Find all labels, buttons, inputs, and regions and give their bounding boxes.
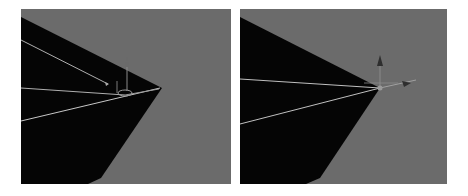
gizmo-pivot-icon[interactable]	[378, 86, 383, 91]
viewport-right[interactable]	[240, 9, 447, 184]
viewport-left[interactable]	[21, 9, 231, 184]
viewport-left-canvas[interactable]	[21, 9, 231, 184]
viewport-right-canvas[interactable]	[240, 9, 447, 184]
